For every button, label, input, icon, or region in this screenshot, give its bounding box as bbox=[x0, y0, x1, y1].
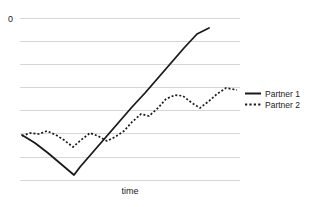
series-partner-1-group bbox=[22, 28, 209, 175]
line-chart: 0 time Partner 1 Partner 2 bbox=[0, 0, 316, 207]
series-partner-2-group bbox=[22, 88, 237, 147]
series-line-partner-1 bbox=[22, 28, 209, 175]
chart-screenshot: 0 time Partner 1 Partner 2 bbox=[0, 0, 316, 207]
legend-label-partner-1: Partner 1 bbox=[265, 89, 300, 99]
legend-item-partner-1[interactable]: Partner 1 bbox=[245, 89, 300, 99]
series-line-partner-2 bbox=[22, 88, 237, 147]
legend-item-partner-2[interactable]: Partner 2 bbox=[245, 100, 300, 110]
y-axis-zero-label: 0 bbox=[8, 14, 13, 24]
x-axis-title: time bbox=[121, 186, 138, 196]
chart-legend: Partner 1 Partner 2 bbox=[245, 89, 300, 110]
legend-label-partner-2: Partner 2 bbox=[265, 100, 300, 110]
